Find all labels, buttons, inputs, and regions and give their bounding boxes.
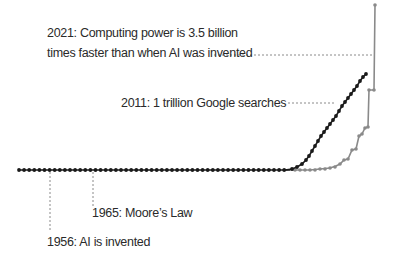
series-google-searches: [17, 72, 368, 172]
computing-power-points: [293, 3, 377, 172]
series-computing-power: [290, 3, 377, 172]
label-2011: 2011: 1 trillion Google searches: [121, 96, 286, 110]
computing-power-line: [290, 5, 375, 170]
annotation-labels: 2021: Computing power is 3.5 billion tim…: [47, 26, 286, 249]
google-searches-points: [290, 72, 368, 171]
label-1956: 1956: AI is invented: [47, 235, 150, 249]
label-1965: 1965: Moore’s Law: [92, 206, 194, 220]
label-2021-line2: times faster than when AI was invented: [47, 46, 253, 60]
chart: 2021: Computing power is 3.5 billion tim…: [0, 0, 396, 270]
label-2021-line1: 2021: Computing power is 3.5 billion: [47, 26, 238, 40]
